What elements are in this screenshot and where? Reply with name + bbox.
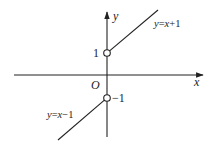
tick-label-1: 1 <box>93 46 99 60</box>
line-y-equals-x-minus-1 <box>58 100 104 140</box>
graph-canvas: y x O 1 −1 y=x+1 y=x−1 <box>0 0 218 151</box>
piecewise-function-graph: y x O 1 −1 y=x+1 y=x−1 <box>0 0 218 151</box>
label-part: +1 <box>169 18 180 29</box>
label-part: −1 <box>62 109 73 120</box>
label-y-equals-x-plus-1: y=x+1 <box>153 18 180 29</box>
tick-label-neg1: −1 <box>112 91 125 105</box>
open-point-0-neg1 <box>104 95 111 102</box>
label-y-equals-x-minus-1: y=x−1 <box>46 109 73 120</box>
open-point-0-1 <box>104 50 111 57</box>
origin-label: O <box>91 78 100 92</box>
x-axis-label: x <box>193 75 200 89</box>
y-axis-label: y <box>112 9 119 23</box>
